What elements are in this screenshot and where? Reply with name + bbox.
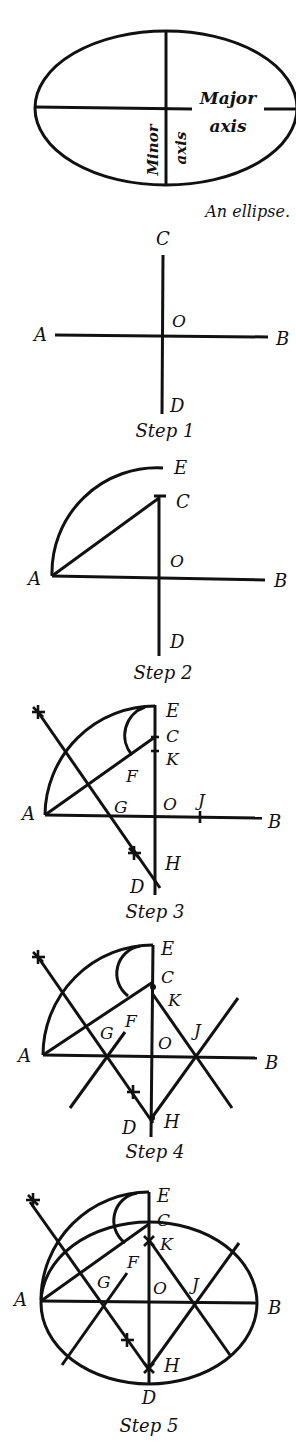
step2-diagram: E C A B O D Step 2 (26, 457, 287, 683)
step2-label-D: D (169, 631, 185, 652)
step1-diagram: C A B O D Step 1 (32, 228, 289, 441)
step4-label-J: J (191, 1020, 202, 1040)
step4-diagram: E C K F G O J A B H D Step 4 (16, 938, 278, 1162)
overview-ellipse: Major axis Minor axis An ellipse. (35, 31, 296, 221)
step1-label-C: C (156, 228, 170, 249)
step4-label-F: F (124, 1011, 138, 1031)
step2-label-C: C (176, 491, 190, 512)
step5-label-D: D (141, 1387, 157, 1408)
minor-axis-label: Minor (144, 123, 162, 176)
step5-diagram: E C K F G O J A B H D Step 5 (12, 1185, 281, 1436)
step4-label-G: G (100, 1023, 114, 1043)
major-axis-label-2: axis (209, 116, 247, 136)
step3-star-top (32, 705, 45, 719)
step1-label-O: O (172, 311, 186, 331)
step5-label-E: E (156, 1185, 170, 1206)
step4-label-B: B (264, 1052, 278, 1073)
step5-label-K: K (159, 1234, 174, 1254)
step4-star-top (32, 950, 45, 964)
step3-diagram: E C K F G O J A B H D Step 3 (20, 700, 281, 922)
step4-caption: Step 4 (126, 1141, 185, 1162)
step5-label-H: H (163, 1355, 180, 1376)
step5-caption: Step 5 (120, 1415, 179, 1436)
major-axis-label: Major (199, 88, 257, 108)
step5-label-O: O (153, 1278, 167, 1298)
step1-caption: Step 1 (136, 420, 195, 441)
step2-label-E: E (173, 457, 187, 478)
step3-label-B: B (267, 811, 281, 832)
step3-label-C: C (166, 726, 179, 746)
step2-label-O: O (170, 551, 184, 571)
step3-label-H: H (164, 853, 181, 874)
step4-label-C: C (161, 967, 174, 987)
step4-label-K: K (167, 990, 182, 1010)
step1-label-D: D (169, 395, 185, 416)
step3-label-E: E (165, 700, 179, 721)
step2-label-A: A (26, 568, 41, 589)
step5-label-F: F (126, 1252, 140, 1272)
ellipse-construction-diagram: Major axis Minor axis An ellipse. C A B … (0, 0, 296, 1448)
step2-caption: Step 2 (134, 662, 193, 683)
step4-label-H: H (163, 1111, 180, 1132)
step1-label-B: B (275, 328, 289, 349)
minor-axis-label-2: axis (172, 131, 190, 164)
step3-label-J: J (195, 790, 206, 810)
step5-label-J: J (189, 1274, 200, 1294)
step1-label-A: A (32, 324, 47, 345)
overview-caption: An ellipse. (203, 202, 290, 221)
step3-label-F: F (125, 766, 139, 786)
step5-label-B: B (267, 1297, 281, 1318)
step3-label-D: D (129, 876, 145, 897)
step5-label-A: A (12, 1289, 27, 1310)
step4-label-O: O (158, 1033, 172, 1053)
step2-label-B: B (273, 570, 287, 591)
step3-label-K: K (165, 749, 180, 769)
step3-caption: Step 3 (126, 901, 185, 922)
step4-label-A: A (16, 1045, 31, 1066)
step3-label-O: O (163, 794, 177, 814)
step5-label-C: C (157, 1210, 170, 1230)
step4-label-D: D (121, 1117, 137, 1138)
step3-label-A: A (20, 803, 35, 824)
step5-label-G: G (97, 1272, 111, 1292)
step3-label-G: G (114, 797, 128, 817)
step5-star-top (26, 1193, 40, 1207)
step3-star-bottom (128, 846, 141, 860)
step4-label-E: E (160, 938, 174, 959)
